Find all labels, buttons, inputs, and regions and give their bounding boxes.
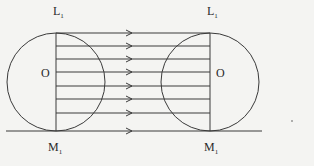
label-O-right: O xyxy=(216,66,225,80)
label-O-left: O xyxy=(41,66,50,80)
parallel-lines xyxy=(56,30,210,134)
dot-mark xyxy=(291,120,293,122)
label-L1-right: L1 xyxy=(207,4,218,20)
label-M1-right: M1 xyxy=(204,140,219,156)
label-M1-left: M1 xyxy=(48,140,63,156)
label-L1-left: L1 xyxy=(53,4,64,20)
diagram: L1 L1 O O M1 M1 xyxy=(0,0,314,166)
